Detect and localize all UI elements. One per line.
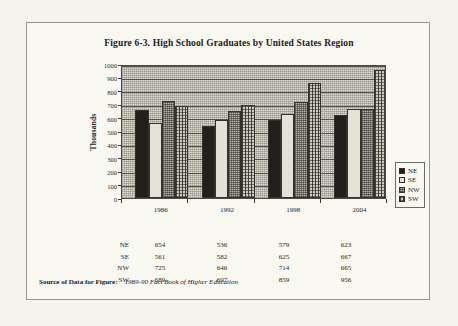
bar-sw-1986	[175, 106, 188, 198]
y-axis-tick-label: 1000	[104, 62, 117, 69]
y-axis-tick-mark	[118, 185, 121, 186]
gridline	[122, 79, 385, 80]
table-row-series-label: SE	[87, 253, 129, 261]
chart-plot-wrapper: Thousands 010020030040050060070080090010…	[121, 65, 386, 199]
figure-border-box: Figure 6-3. High School Graduates by Uni…	[26, 22, 430, 300]
x-axis-tick-mark	[187, 199, 188, 203]
bar-sw-1998	[308, 83, 321, 198]
table-cell-value: 561	[129, 253, 191, 261]
bar-ne-2004	[334, 115, 347, 198]
legend-item-se: SE	[399, 176, 420, 186]
y-axis-tick-mark	[118, 65, 121, 66]
table-cell-value: 625	[253, 253, 315, 261]
table-cell-value: 665	[315, 264, 377, 272]
legend-swatch-sw-icon	[399, 196, 405, 202]
y-axis-tick-label: 100	[107, 182, 117, 189]
y-axis-tick-label: 600	[107, 115, 117, 122]
y-axis-tick-label: 200	[107, 169, 117, 176]
table-row: NW725646714665	[87, 264, 377, 276]
bar-nw-1992	[228, 111, 241, 198]
x-axis-category-label: 1998	[286, 206, 300, 214]
y-axis-tick-mark	[118, 118, 121, 119]
table-row: SE561582625667	[87, 253, 377, 265]
legend-label: SE	[408, 176, 416, 184]
table-cell-value: 623	[315, 241, 377, 249]
y-axis-tick-mark	[118, 78, 121, 79]
chart-plot-area	[121, 65, 386, 199]
legend-swatch-ne-icon	[399, 168, 405, 174]
table-row-series-label: NW	[87, 264, 129, 272]
table-cell-value: 646	[191, 264, 253, 272]
y-axis-tick-mark	[118, 91, 121, 92]
bar-se-1998	[281, 114, 294, 198]
y-axis-tick-mark	[118, 158, 121, 159]
figure-title: Figure 6-3. High School Graduates by Uni…	[27, 38, 431, 48]
y-axis-tick-label: 500	[107, 129, 117, 136]
bar-ne-1998	[268, 120, 281, 198]
x-axis-category-label: 2004	[353, 206, 367, 214]
table-cell-value: 956	[315, 276, 377, 284]
gridline	[122, 66, 385, 67]
y-axis-tick-mark	[118, 172, 121, 173]
y-axis-tick-mark	[118, 132, 121, 133]
table-cell-value: 582	[191, 253, 253, 261]
bar-nw-2004	[361, 109, 374, 198]
y-axis-tick-mark	[118, 145, 121, 146]
legend-item-sw: SW	[399, 195, 420, 205]
y-axis-tick-mark	[118, 105, 121, 106]
legend-label: NE	[408, 167, 417, 175]
source-label: Source of Data for Figure:	[39, 278, 118, 286]
y-axis-tick-label: 700	[107, 102, 117, 109]
legend-label: NW	[408, 186, 420, 194]
table-cell-value: 667	[315, 253, 377, 261]
table-row: NE654536579623	[87, 241, 377, 253]
gridline	[122, 92, 385, 93]
bar-ne-1986	[135, 110, 148, 198]
y-axis-title: Thousands	[89, 114, 98, 151]
y-axis-tick-label: 300	[107, 155, 117, 162]
chart-legend: NESENWSW	[395, 162, 425, 208]
bar-se-1986	[149, 123, 162, 198]
table-cell-value: 654	[129, 241, 191, 249]
source-line: Source of Data for Figure: 1989-90 Fact …	[39, 278, 238, 286]
bar-se-2004	[347, 109, 360, 198]
x-axis-tick-mark	[121, 199, 122, 203]
legend-swatch-nw-icon	[399, 187, 405, 193]
source-reference: 1989-90 Fact Book of Higher Education	[125, 278, 238, 286]
y-axis-tick-label: 900	[107, 75, 117, 82]
y-axis-tick-label: 0	[114, 196, 117, 203]
bar-sw-2004	[374, 70, 386, 198]
legend-item-ne: NE	[399, 166, 420, 176]
x-axis-category-label: 1992	[220, 206, 234, 214]
table-cell-value: 859	[253, 276, 315, 284]
bar-nw-1986	[162, 101, 175, 198]
table-cell-value: 579	[253, 241, 315, 249]
bar-nw-1998	[294, 102, 307, 198]
x-axis-tick-mark	[386, 199, 387, 203]
table-cell-value: 536	[191, 241, 253, 249]
y-axis-tick-label: 800	[107, 88, 117, 95]
bar-sw-1992	[241, 105, 254, 198]
x-axis-tick-mark	[254, 199, 255, 203]
bar-se-1992	[215, 120, 228, 198]
legend-swatch-se-icon	[399, 177, 405, 183]
x-axis-category-label: 1986	[154, 206, 168, 214]
legend-label: SW	[408, 195, 419, 203]
x-axis-tick-mark	[320, 199, 321, 203]
document-page: Figure 6-3. High School Graduates by Uni…	[0, 0, 458, 326]
legend-item-nw: NW	[399, 185, 420, 195]
table-cell-value: 725	[129, 264, 191, 272]
bar-ne-1992	[202, 126, 215, 198]
table-row-series-label: NE	[87, 241, 129, 249]
y-axis-tick-label: 400	[107, 142, 117, 149]
table-cell-value: 714	[253, 264, 315, 272]
